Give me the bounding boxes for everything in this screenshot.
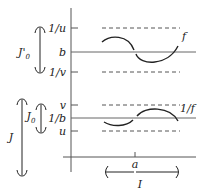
interval-j-arrow <box>17 99 27 176</box>
curve-f <box>102 37 178 62</box>
interval-j0-prime-arrow <box>35 27 45 73</box>
label-v: v <box>60 99 67 112</box>
label-1-over-u: 1/u <box>48 22 66 35</box>
label-j0: J0 <box>25 110 36 125</box>
label-u: u <box>59 125 66 138</box>
label-a: a <box>132 158 139 171</box>
label-f: f <box>181 30 188 43</box>
label-1-over-f: 1/f <box>180 102 197 115</box>
label-1-over-b: 1/b <box>48 112 66 125</box>
interval-i-bracket <box>106 166 179 178</box>
diagram: 1/u b 1/v f J'0 v 1/b u 1/f J J0 a I <box>0 0 219 196</box>
curve-1-over-f <box>104 109 178 126</box>
interval-j0-arrow <box>36 104 46 133</box>
label-j0-prime: J'0 <box>16 46 30 61</box>
label-j: J <box>7 131 14 144</box>
label-i: I <box>137 178 143 191</box>
label-1-over-v: 1/v <box>49 66 67 79</box>
label-b: b <box>59 46 66 59</box>
